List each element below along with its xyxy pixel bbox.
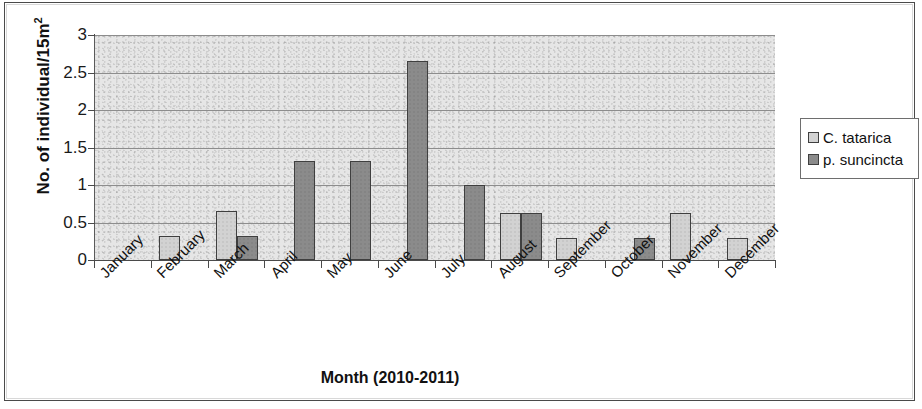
gridline: [95, 148, 775, 149]
x-axis-title: Month (2010-2011): [5, 369, 775, 387]
chart-legend: C. tatarica p. suncincta: [800, 118, 919, 179]
x-axis-tick-mark: [491, 261, 492, 268]
x-axis-tick-mark: [605, 261, 606, 268]
bar-june-p-suncincta: [407, 61, 428, 260]
legend-swatch-p-suncincta: [808, 154, 819, 165]
legend-label-p-suncincta: p. suncincta: [823, 151, 903, 168]
legend-swatch-c-tatarica: [808, 132, 819, 143]
y-axis-tick-labels: 00.511.522.53: [41, 3, 87, 303]
bar-texture: [351, 162, 370, 259]
x-axis-tick-mark: [662, 261, 663, 268]
x-axis-tick-mark: [208, 261, 209, 268]
legend-item-c-tatarica: C. tatarica: [808, 126, 912, 148]
x-axis-tick-mark: [94, 261, 95, 268]
x-axis-tick-mark: [321, 261, 322, 268]
bar-texture: [408, 62, 427, 259]
y-axis-tick-mark: [88, 73, 95, 74]
x-axis-tick-mark: [718, 261, 719, 268]
figure-frame: No. of individual/15m2 00.511.522.53 Jan…: [4, 2, 915, 401]
x-axis-tick-mark: [435, 261, 436, 268]
y-axis-tick-mark: [88, 223, 95, 224]
bar-april-p-suncincta: [294, 161, 315, 260]
bar-may-p-suncincta: [350, 161, 371, 260]
bar-texture: [295, 162, 314, 259]
y-axis-tick-mark: [88, 260, 95, 261]
gridline: [95, 73, 775, 74]
y-axis-tick-mark: [88, 148, 95, 149]
gridline: [95, 110, 775, 111]
x-axis-tick-mark: [548, 261, 549, 268]
legend-label-c-tatarica: C. tatarica: [823, 129, 891, 146]
x-axis-tick-mark: [775, 261, 776, 268]
y-axis-tick-label: 1: [47, 176, 87, 193]
gridline: [95, 35, 775, 36]
bar-texture: [465, 186, 484, 259]
y-axis-tick-label: 0.5: [47, 214, 87, 231]
y-axis-tick-mark: [88, 110, 95, 111]
gridline: [95, 185, 775, 186]
legend-item-p-suncincta: p. suncincta: [808, 148, 912, 170]
x-axis-tick-mark: [151, 261, 152, 268]
y-axis-tick-label: 2: [47, 101, 87, 118]
y-axis-tick-label: 0: [47, 251, 87, 268]
y-axis-tick-label: 2.5: [47, 64, 87, 81]
x-axis-tick-mark: [264, 261, 265, 268]
x-axis-tick-mark: [378, 261, 379, 268]
y-axis-tick-mark: [88, 185, 95, 186]
y-axis-tick-label: 1.5: [47, 139, 87, 156]
bar-july-p-suncincta: [464, 185, 485, 260]
y-axis-tick-mark: [88, 35, 95, 36]
y-axis-tick-label: 3: [47, 26, 87, 43]
